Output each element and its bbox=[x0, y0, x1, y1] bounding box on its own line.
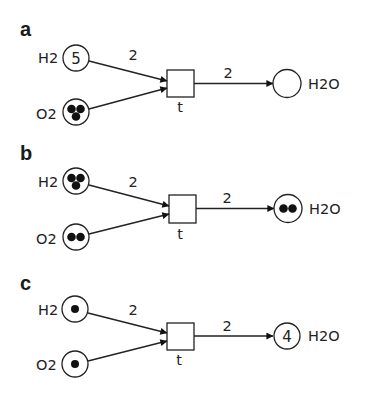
arc-weight: 2 bbox=[223, 65, 232, 81]
place-o2[interactable] bbox=[63, 224, 89, 250]
token-count: 5 bbox=[71, 50, 81, 68]
panel-a: a H2 5 O2 t 2 2 H2O bbox=[20, 18, 340, 125]
arc-weight: 2 bbox=[222, 190, 231, 206]
arc-weight: 2 bbox=[128, 174, 137, 190]
place-label-o2: O2 bbox=[36, 357, 57, 373]
token-count: 4 bbox=[282, 328, 292, 346]
arc-o2-to-t bbox=[89, 88, 167, 109]
token bbox=[71, 360, 79, 368]
transition-t[interactable] bbox=[167, 323, 194, 350]
panel-label: a bbox=[20, 18, 32, 40]
place-label-h2: H2 bbox=[38, 50, 58, 66]
place-label-h2: H2 bbox=[38, 174, 58, 190]
panel-c: c H2 O2 t 2 2 4 H2O bbox=[20, 272, 340, 377]
arc-h2-to-t bbox=[89, 61, 167, 81]
place-label-h2o: H2O bbox=[308, 76, 340, 92]
place-label-o2: O2 bbox=[36, 106, 57, 122]
token bbox=[71, 305, 79, 313]
arc-o2-to-t bbox=[89, 214, 169, 234]
transition-label: t bbox=[177, 226, 183, 242]
place-label-h2o: H2O bbox=[308, 328, 340, 344]
arc-weight: 2 bbox=[128, 302, 137, 318]
arc-weight: 2 bbox=[128, 47, 137, 63]
arc-o2-to-t bbox=[88, 341, 167, 361]
place-label-h2: H2 bbox=[38, 302, 58, 318]
place-h2o[interactable] bbox=[273, 70, 301, 98]
panel-label: b bbox=[20, 142, 32, 164]
place-o2[interactable] bbox=[63, 99, 89, 125]
transition-t[interactable] bbox=[169, 195, 196, 223]
place-h2o[interactable] bbox=[274, 195, 302, 223]
transition-label: t bbox=[177, 99, 183, 115]
place-label-o2: O2 bbox=[36, 231, 57, 247]
transition-t[interactable] bbox=[167, 70, 194, 97]
petri-net-figure: a H2 5 O2 t 2 2 H2O b H2 bbox=[0, 0, 366, 397]
panel-label: c bbox=[20, 272, 31, 294]
transition-label: t bbox=[176, 352, 182, 368]
place-h2[interactable] bbox=[63, 168, 89, 194]
panel-b: b H2 O2 t 2 2 H2O bbox=[20, 142, 341, 250]
arc-weight: 2 bbox=[222, 318, 231, 334]
place-label-h2o: H2O bbox=[309, 201, 341, 217]
